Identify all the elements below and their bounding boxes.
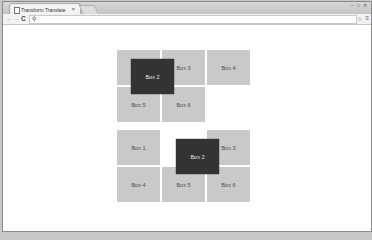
box: Box 4 <box>207 50 250 85</box>
close-tab-icon[interactable]: × <box>71 6 75 12</box>
bookmark-star-icon[interactable]: ☆ <box>357 15 362 22</box>
browser-toolbar: ← → C ⚲ ☆ ≡ <box>3 14 371 25</box>
box: Box 1 <box>117 130 160 165</box>
back-icon[interactable]: ← <box>6 15 13 22</box>
page-icon <box>14 7 20 14</box>
reload-icon[interactable]: C <box>21 15 26 22</box>
page-viewport: Box 3 Box 4 Box 5 Box 6 Box 2 Box 1 Box … <box>3 25 371 231</box>
box: Box 4 <box>117 167 160 202</box>
window-controls[interactable]: ─ □ ✕ <box>351 3 368 8</box>
title-bar: Transform Translate × ─ □ ✕ <box>3 2 371 14</box>
search-icon: ⚲ <box>32 15 36 22</box>
address-bar[interactable]: ⚲ <box>29 15 357 24</box>
menu-icon[interactable]: ≡ <box>365 15 369 21</box>
forward-icon[interactable]: → <box>13 15 20 22</box>
translated-box: Box 2 <box>131 59 174 94</box>
translated-box: Box 2 <box>176 139 219 174</box>
browser-window: Transform Translate × ─ □ ✕ ← → C ⚲ ☆ ≡ … <box>2 1 372 232</box>
tab-title: Transform Translate <box>21 7 66 13</box>
